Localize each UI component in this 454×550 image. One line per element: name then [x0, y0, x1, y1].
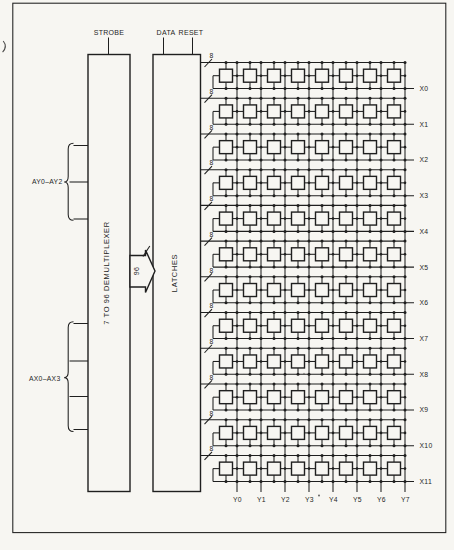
- junction-dot: [260, 168, 263, 171]
- junction-dot: [393, 337, 396, 340]
- junction-dot: [332, 132, 335, 135]
- junction-dot: [273, 337, 276, 340]
- junction-dot: [393, 230, 396, 233]
- junction-dot: [297, 382, 300, 385]
- junction-dot: [249, 230, 252, 233]
- junction-dot: [345, 204, 348, 207]
- junction-dot: [284, 418, 287, 421]
- junction-dot: [308, 275, 311, 278]
- junction-dot: [345, 337, 348, 340]
- junction-dot: [284, 311, 287, 314]
- crosspoint-cell: [220, 319, 233, 332]
- crosspoint-cell: [316, 105, 329, 118]
- junction-dot: [260, 480, 263, 483]
- junction-dot: [308, 454, 311, 457]
- junction-dot: [260, 194, 263, 197]
- junction-dot: [297, 275, 300, 278]
- row-label: X3: [420, 192, 429, 199]
- junction-dot: [273, 480, 276, 483]
- junction-dot: [321, 408, 324, 411]
- junction-dot: [380, 97, 383, 100]
- junction-dot: [225, 158, 228, 161]
- junction-dot: [297, 337, 300, 340]
- junction-dot: [273, 311, 276, 314]
- crosspoint-cell: [364, 391, 377, 404]
- row-bus-width-label: 8: [209, 195, 213, 202]
- crosspoint-cell: [244, 355, 257, 368]
- crosspoint-cell: [340, 105, 353, 118]
- junction-dot: [356, 301, 359, 304]
- junction-dot: [225, 240, 228, 243]
- junction-dot: [236, 418, 239, 421]
- junction-dot: [284, 275, 287, 278]
- junction-dot: [321, 97, 324, 100]
- junction-dot: [225, 87, 228, 90]
- crosspoint-cell: [316, 176, 329, 189]
- crosspoint-cell: [220, 284, 233, 297]
- junction-dot: [236, 337, 239, 340]
- junction-dot: [225, 408, 228, 411]
- junction-dot: [404, 253, 407, 256]
- crosspoint-cell: [268, 69, 281, 82]
- junction-dot: [369, 97, 372, 100]
- junction-dot: [356, 337, 359, 340]
- junction-dot: [393, 418, 396, 421]
- crosspoint-cell: [244, 176, 257, 189]
- junction-dot: [369, 275, 372, 278]
- latches-block: LATCHES: [153, 55, 201, 492]
- junction-dot: [380, 311, 383, 314]
- crosspoint-cell: [292, 462, 305, 475]
- junction-dot: [404, 301, 407, 304]
- crosspoint-cell: [364, 355, 377, 368]
- crosspoint-cell: [340, 141, 353, 154]
- crosspoint-cell: [388, 212, 401, 225]
- junction-dot: [273, 168, 276, 171]
- junction-dot: [404, 444, 407, 447]
- crosspoint-cell: [244, 391, 257, 404]
- junction-dot: [404, 360, 407, 363]
- junction-dot: [249, 123, 252, 126]
- junction-dot: [284, 123, 287, 126]
- junction-dot: [393, 123, 396, 126]
- crosspoint-cell: [316, 284, 329, 297]
- crosspoint-cell: [268, 212, 281, 225]
- junction-dot: [404, 240, 407, 243]
- junction-dot: [356, 97, 359, 100]
- junction-dot: [297, 204, 300, 207]
- junction-dot: [297, 132, 300, 135]
- junction-dot: [260, 373, 263, 376]
- row-bus-width-label: 8: [209, 267, 213, 274]
- junction-dot: [249, 275, 252, 278]
- junction-dot: [308, 337, 311, 340]
- junction-dot: [297, 408, 300, 411]
- junction-dot: [356, 168, 359, 171]
- row-bus-width-label: 8: [209, 159, 213, 166]
- junction-dot: [380, 87, 383, 90]
- junction-dot: [380, 194, 383, 197]
- junction-dot: [249, 132, 252, 135]
- crosspoint-cell: [292, 105, 305, 118]
- junction-dot: [380, 266, 383, 269]
- junction-dot: [273, 266, 276, 269]
- junction-dot: [380, 382, 383, 385]
- crosspoint-cell: [364, 426, 377, 439]
- junction-dot: [404, 158, 407, 161]
- junction-dot: [297, 230, 300, 233]
- junction-dot: [345, 230, 348, 233]
- junction-dot: [404, 87, 407, 90]
- junction-dot: [393, 347, 396, 350]
- junction-dot: [249, 337, 252, 340]
- left-input-ax-group: AX0–AX3: [29, 322, 88, 432]
- crosspoint-cell: [220, 105, 233, 118]
- crosspoint-cell: [340, 426, 353, 439]
- junction-dot: [308, 61, 311, 64]
- junction-dot: [404, 132, 407, 135]
- junction-dot: [225, 168, 228, 171]
- junction-dot: [356, 275, 359, 278]
- row-bus-width-label: 8: [209, 124, 213, 131]
- crosspoint-cell: [220, 141, 233, 154]
- junction-dot: [225, 194, 228, 197]
- junction-dot: [260, 266, 263, 269]
- junction-dot: [369, 61, 372, 64]
- column-label: Y0: [233, 496, 242, 503]
